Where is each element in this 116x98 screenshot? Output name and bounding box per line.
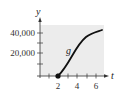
- x-axis-label: t: [111, 70, 114, 81]
- x-axis-arrow-icon: [104, 74, 109, 77]
- y-tick-label-40000: 40,000: [10, 28, 35, 38]
- start-point-marker: [55, 73, 60, 78]
- chart: y t 40,000 20,000 2 4 6 g: [0, 0, 116, 98]
- y-tick-label-20000: 20,000: [10, 48, 35, 58]
- x-tick-label-2: 2: [56, 81, 61, 91]
- x-tick-label-6: 6: [94, 81, 99, 91]
- curve-label-g: g: [66, 45, 71, 56]
- x-tick-label-4: 4: [75, 81, 80, 91]
- y-axis-label: y: [35, 6, 41, 17]
- y-axis-arrow-icon: [38, 17, 41, 22]
